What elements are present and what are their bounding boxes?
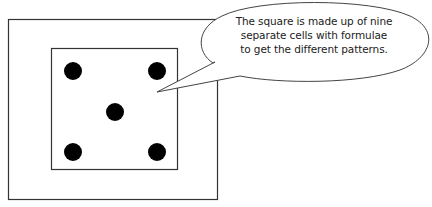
dot-top-left <box>64 62 82 80</box>
callout-line-1: The square is made up of nine <box>222 14 406 28</box>
callout-text: The square is made up of nine separate c… <box>222 14 406 56</box>
dot-center <box>106 103 124 121</box>
callout-line-2: separate cells with formulae <box>222 28 406 42</box>
dot-bottom-right <box>148 143 166 161</box>
dot-top-right <box>148 62 166 80</box>
dot-bottom-left <box>64 143 82 161</box>
callout-line-3: to get the different patterns. <box>222 42 406 56</box>
